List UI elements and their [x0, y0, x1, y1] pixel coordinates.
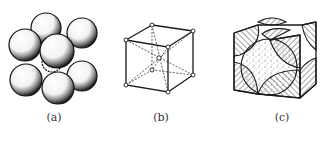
- panel-a-sphere-model: [9, 13, 97, 104]
- panel-c-sectioned-cell: [234, 18, 316, 98]
- caption-c: (c): [275, 111, 290, 124]
- bcc-crystal-figure: (a) (b) (c): [0, 0, 329, 143]
- caption-b: (b): [153, 111, 169, 124]
- caption-a: (a): [46, 111, 61, 124]
- panel-b-unit-cell: [124, 23, 195, 94]
